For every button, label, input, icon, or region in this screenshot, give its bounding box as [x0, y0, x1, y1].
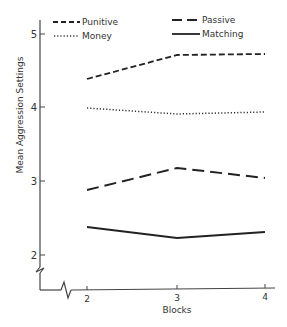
- y-axis: [36, 20, 44, 290]
- x-axis-label: Blocks: [162, 305, 191, 315]
- series-money: [87, 108, 265, 114]
- y-tick-label-3: 3: [31, 176, 37, 187]
- y-tick-label-4: 4: [31, 102, 37, 113]
- legend-label-passive: Passive: [202, 15, 236, 25]
- series-punitive: [87, 54, 265, 79]
- x-tick-label-3: 3: [174, 293, 180, 303]
- x-tick-label-2: 2: [84, 294, 90, 304]
- legend-label-punitive: Punitive: [82, 17, 119, 27]
- series-passive: [87, 168, 265, 190]
- legend-label-matching: Matching: [202, 29, 243, 39]
- y-tick-label-5: 5: [31, 29, 37, 40]
- y-ticks: [40, 34, 45, 255]
- legend: Punitive Money Passive Matching: [53, 15, 243, 41]
- series-matching: [87, 227, 265, 238]
- x-tick-label-4: 4: [262, 292, 268, 302]
- y-tick-label-2: 2: [31, 250, 37, 261]
- legend-label-money: Money: [82, 31, 113, 41]
- y-axis-label: Mean Aggression Settings: [15, 56, 25, 173]
- x-axis: [40, 282, 275, 298]
- line-chart: 5 4 3 2 2 3 4 Blocks Mean Aggression Set…: [0, 0, 287, 327]
